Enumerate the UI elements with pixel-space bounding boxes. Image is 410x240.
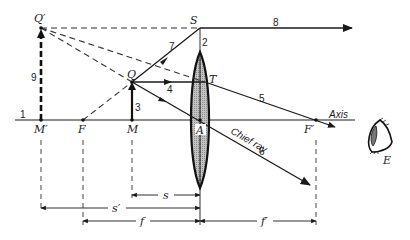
point-A <box>198 118 202 122</box>
point-Mprime <box>39 118 43 122</box>
label-M: M <box>126 123 139 136</box>
ray-number-9: 9 <box>31 72 37 83</box>
ray-number-4: 4 <box>167 84 173 95</box>
label-Fprime: F′ <box>303 123 315 136</box>
ray-6-chief <box>132 82 310 185</box>
point-Fprime <box>314 118 318 122</box>
label-A: A <box>195 124 204 137</box>
ray-7 <box>132 28 200 82</box>
label-E: E <box>382 154 391 167</box>
dim-label-s: s <box>163 189 169 202</box>
ray-number-3: 3 <box>135 102 141 113</box>
label-Q: Q <box>127 68 136 81</box>
axis-label: Axis <box>328 109 348 120</box>
point-F <box>81 118 85 122</box>
point-M <box>130 118 134 122</box>
image-arrowhead <box>37 29 45 38</box>
dim-label-sprime: s′ <box>112 202 121 215</box>
point-Qprime <box>39 26 43 30</box>
label-T: T <box>209 73 218 86</box>
label-S: S <box>190 14 198 27</box>
ray-number-7: 7 <box>169 41 175 52</box>
dashed-Qprime-to-Q <box>41 28 132 82</box>
dim-label-f: f <box>139 215 146 228</box>
dashed-Qprime-to-T <box>41 28 205 82</box>
label-F: F <box>77 123 86 136</box>
ray-number-5: 5 <box>259 93 265 104</box>
lens-ray-diagram: Q′ S Q T M′ F M A F′ E 1 2 3 4 5 6 7 8 9… <box>0 0 410 240</box>
ray-number-1: 1 <box>20 109 26 120</box>
label-Mprime: M′ <box>33 123 48 136</box>
dim-label-fprime: f′ <box>260 215 268 228</box>
eye-icon <box>369 118 392 154</box>
dashed-F-to-Q <box>83 82 132 120</box>
ray-number-8: 8 <box>273 17 279 28</box>
label-Qprime: Q′ <box>34 12 46 25</box>
ray-number-2: 2 <box>202 37 208 48</box>
